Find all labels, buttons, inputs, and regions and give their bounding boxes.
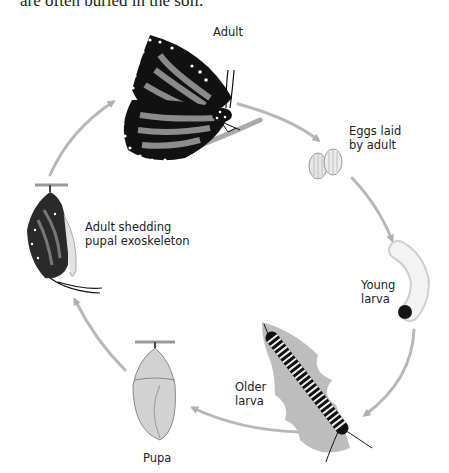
arrow-emerging-to-adult [50, 102, 113, 175]
label-adult: Adult [213, 25, 243, 39]
arrow-young-larva-to-older-larva [365, 330, 414, 415]
young-larva-illustration [398, 250, 420, 319]
adult-butterfly-illustration [121, 35, 260, 162]
label-pupa: Pupa [143, 451, 171, 465]
arrow-older-larva-to-pupa [193, 408, 298, 432]
life-cycle-diagram [0, 0, 449, 473]
arrow-eggs-to-young-larva [352, 178, 392, 240]
label-young-larva: Young larva [361, 278, 395, 306]
pupa-illustration [133, 342, 175, 440]
label-emerging-adult: Adult shedding pupal exoskeleton [85, 220, 190, 248]
label-eggs: Eggs laid by adult [349, 124, 401, 152]
label-older-larva: Older larva [235, 380, 266, 408]
eggs-illustration [309, 149, 342, 179]
older-larva-illustration [262, 322, 372, 462]
arrow-pupa-to-emerging [75, 300, 125, 370]
